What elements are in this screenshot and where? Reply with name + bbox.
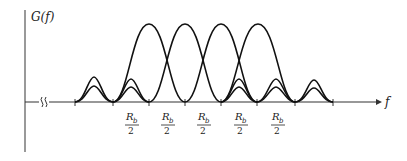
tick-label-4: R b 2	[234, 111, 248, 136]
tick-label-5: R b 2	[271, 111, 285, 136]
svg-text:2: 2	[128, 126, 134, 136]
power-spectrum-diagram: G(f) f	[0, 0, 407, 161]
svg-text:b: b	[205, 117, 210, 125]
svg-text:2: 2	[200, 126, 206, 136]
x-axis-arrow-icon	[376, 99, 382, 105]
svg-text:2: 2	[274, 126, 280, 136]
tick-label-3: R b 2	[197, 111, 211, 136]
svg-text:2: 2	[164, 126, 170, 136]
x-axis-label: f	[384, 95, 392, 109]
tick-label-2: R b 2	[161, 111, 175, 136]
svg-text:b: b	[133, 117, 138, 125]
tick-label-1: R b 2	[125, 111, 139, 136]
svg-text:b: b	[169, 117, 174, 125]
svg-text:2: 2	[237, 126, 243, 136]
y-axis-label: G(f)	[31, 10, 55, 24]
svg-text:b: b	[279, 117, 284, 125]
spectrum-curves	[75, 24, 333, 102]
svg-text:b: b	[242, 117, 247, 125]
